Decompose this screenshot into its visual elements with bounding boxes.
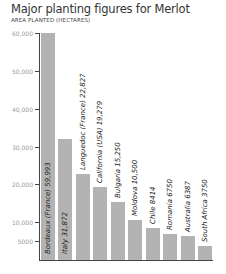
bar (146, 228, 160, 260)
y-tick-mark (35, 109, 39, 110)
bar-label: Australia 6387 (184, 181, 192, 232)
bar-label: Romania 6750 (166, 179, 174, 230)
y-tick-label: 20,000 (12, 181, 33, 188)
y-tick-mark (35, 184, 39, 185)
bar (111, 202, 125, 260)
y-tick-mark (35, 71, 39, 72)
bar (198, 246, 212, 260)
x-axis (39, 260, 213, 261)
y-tick-mark (35, 222, 39, 223)
chart-title: Major planting figures for Merlot (11, 2, 190, 16)
bar-label: Bulgaria 15,250 (114, 143, 122, 199)
y-tick-label: 40,000 (12, 105, 33, 112)
bar (93, 187, 107, 260)
y-tick-label: 5000 (18, 238, 33, 245)
bar (163, 234, 177, 260)
bar (76, 174, 90, 260)
y-tick-mark (35, 241, 39, 242)
y-tick-mark (35, 33, 39, 34)
bar (181, 236, 195, 260)
bar-label: South Africa 3750 (201, 179, 209, 242)
y-tick-label: 60,000 (12, 30, 33, 37)
y-tick-label: 10,000 (12, 219, 33, 226)
bar-label: Moldova 10,500 (131, 160, 139, 216)
y-tick-label: 30,000 (12, 143, 33, 150)
bar-label: Bordeaux (France) 59,993 (44, 162, 52, 254)
y-tick-label: 50,000 (12, 67, 33, 74)
bar (128, 220, 142, 260)
bar-label: Chile 8414 (149, 187, 157, 225)
y-tick-mark (35, 147, 39, 148)
chart-subtitle: AREA PLANTED (HECTARES) (11, 17, 90, 23)
bar-label: Languedoc (France) 22,827 (79, 73, 87, 170)
bar-label: Italy 31,872 (61, 212, 69, 254)
bar-label: California (USA) 19,279 (96, 101, 104, 183)
